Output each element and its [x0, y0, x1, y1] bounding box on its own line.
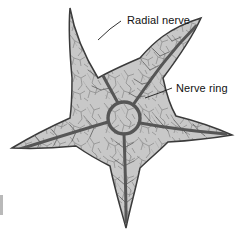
page-edge-mark: [0, 195, 3, 215]
radial-nerve-label: Radial nerve: [127, 14, 190, 26]
nerve-ring-label: Nerve ring: [176, 82, 228, 94]
figure-root: Radial nerve Nerve ring: [0, 0, 239, 235]
starfish-body: [12, 8, 232, 228]
radial-nerve-leader-line: [98, 21, 121, 40]
starfish-nervous-system-figure: Radial nerve Nerve ring: [0, 0, 239, 235]
